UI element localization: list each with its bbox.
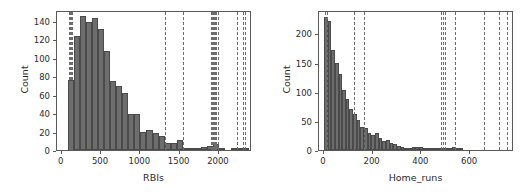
x-tick-label: 0: [320, 156, 325, 166]
x-tick-label: 2000: [207, 156, 229, 166]
y-tick-label: 200: [284, 29, 312, 39]
vertical-marker-line: [455, 12, 456, 150]
x-axis-label-rbis: RBIs: [56, 172, 251, 183]
y-tick-mark: [53, 77, 56, 78]
x-tick-label: 200: [364, 156, 380, 166]
y-tick-mark: [315, 122, 318, 123]
y-tick-mark: [53, 114, 56, 115]
y-axis-label-rbis: Count: [19, 50, 30, 110]
chart-panel-rbis: 020406080100120140 0500100015002000 Coun…: [0, 0, 262, 193]
x-tick-mark: [420, 151, 421, 154]
vertical-marker-line: [364, 12, 365, 150]
y-tick-label: 120: [22, 35, 50, 45]
y-tick-mark: [53, 59, 56, 60]
y-tick-label: 0: [22, 146, 50, 156]
vertical-marker-line: [354, 12, 355, 150]
x-tick-mark: [469, 151, 470, 154]
vertical-marker-line: [165, 12, 166, 150]
y-tick-mark: [53, 22, 56, 23]
x-axis-label-home-runs: Home_runs: [318, 172, 513, 183]
x-tick-label: 1000: [129, 156, 151, 166]
x-tick-mark: [139, 151, 140, 154]
vertical-marker-line: [445, 12, 446, 150]
x-tick-label: 400: [412, 156, 428, 166]
vertical-marker-line: [327, 12, 328, 150]
y-tick-mark: [53, 96, 56, 97]
y-tick-mark: [315, 151, 318, 152]
y-tick-label: 0: [284, 146, 312, 156]
vertical-marker-line: [245, 12, 246, 150]
x-tick-label: 500: [92, 156, 108, 166]
vertical-marker-line: [507, 12, 508, 150]
figure-container: 020406080100120140 0500100015002000 Coun…: [0, 0, 524, 193]
y-tick-label: 40: [22, 109, 50, 119]
y-tick-mark: [53, 151, 56, 152]
vertical-marker-lines-home-runs: [319, 12, 512, 150]
y-axis-label-home-runs: Count: [281, 50, 292, 110]
vertical-marker-lines-rbis: [57, 12, 250, 150]
y-tick-mark: [315, 64, 318, 65]
plot-area-rbis: [56, 11, 251, 151]
y-tick-label: 140: [22, 17, 50, 27]
vertical-marker-line: [243, 12, 244, 150]
plot-area-home-runs: [318, 11, 513, 151]
vertical-marker-line: [499, 12, 500, 150]
vertical-marker-line: [183, 12, 184, 150]
x-tick-label: 0: [58, 156, 63, 166]
x-tick-mark: [179, 151, 180, 154]
vertical-marker-line: [237, 12, 238, 150]
vertical-marker-line: [441, 12, 442, 150]
y-tick-mark: [53, 133, 56, 134]
x-tick-mark: [372, 151, 373, 154]
vertical-marker-line: [72, 12, 73, 150]
vertical-marker-line: [218, 12, 219, 150]
x-tick-mark: [323, 151, 324, 154]
vertical-marker-line: [443, 12, 444, 150]
x-tick-mark: [100, 151, 101, 154]
x-tick-label: 1500: [168, 156, 190, 166]
y-tick-mark: [315, 34, 318, 35]
x-tick-label: 600: [461, 156, 477, 166]
x-tick-mark: [61, 151, 62, 154]
y-tick-mark: [53, 40, 56, 41]
y-tick-label: 20: [22, 128, 50, 138]
x-tick-mark: [218, 151, 219, 154]
y-tick-label: 50: [284, 117, 312, 127]
y-tick-mark: [315, 93, 318, 94]
vertical-marker-line: [484, 12, 485, 150]
chart-panel-home-runs: 050100150200 0200400600 Count Home_runs: [262, 0, 524, 193]
